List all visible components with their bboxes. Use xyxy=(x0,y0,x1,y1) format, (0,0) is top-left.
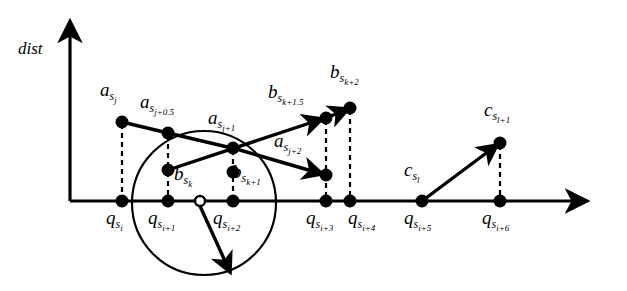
label-b-sk15-base: b xyxy=(268,81,278,102)
label-a-sj2-base: a xyxy=(274,130,284,151)
label-b-sk2-base: b xyxy=(330,61,340,82)
arrow-csl-to-csl1 xyxy=(422,145,497,201)
label-q-si1: qsi+1 xyxy=(148,208,175,233)
point-a-sj xyxy=(116,116,129,129)
label-b-sk-base: b xyxy=(174,163,184,184)
label-c-sl1: csl+1 xyxy=(484,100,510,125)
label-q-si6-base: q xyxy=(482,207,492,228)
label-a-sj-base: a xyxy=(100,79,110,100)
marker-q-si4 xyxy=(344,195,357,208)
label-a-sj05-base: a xyxy=(140,91,150,112)
label-b-sk1-sub: sk+1 xyxy=(242,171,261,185)
label-a-sj05-sub: sj+0.5 xyxy=(150,101,175,115)
point-c-sl1 xyxy=(494,137,507,150)
label-q-si1-base: q xyxy=(148,207,158,228)
marker-q-si3 xyxy=(320,195,333,208)
label-q-si5-sub: si+5 xyxy=(414,217,432,231)
label-q-si2-base: q xyxy=(213,207,223,228)
label-q-si3-sub: si+3 xyxy=(316,217,334,231)
label-q-si6: qsi+6 xyxy=(482,208,509,233)
label-a-sj1: asj+1 xyxy=(208,108,235,133)
distance-diagram-figure: dist asj asj+0.5 asj+1 asj+2 bsk bsk+1 b… xyxy=(0,0,627,291)
label-q-si-base: q xyxy=(106,207,116,228)
label-b-sk1: bsk+1 xyxy=(232,162,261,187)
label-b-sk1-base: b xyxy=(232,161,242,182)
label-q-si2-sub: si+2 xyxy=(223,217,241,231)
label-b-sk2: bsk+2 xyxy=(330,62,359,87)
label-q-si4-base: q xyxy=(348,207,358,228)
marker-q-si6 xyxy=(494,195,507,208)
label-q-si-sub: si xyxy=(116,217,123,231)
label-b-sk: bsk xyxy=(174,164,192,189)
y-axis-label: dist xyxy=(18,40,43,57)
label-q-si: qsi xyxy=(106,208,123,233)
label-a-sj2: asj+2 xyxy=(274,131,301,156)
arrows-group xyxy=(168,109,497,272)
point-a-sj05 xyxy=(162,127,175,140)
label-q-si1-sub: si+1 xyxy=(158,217,176,231)
label-a-sj1-sub: sj+1 xyxy=(218,117,236,131)
label-q-si5-base: q xyxy=(404,207,414,228)
marker-q-si1 xyxy=(162,195,175,208)
label-b-sk-sub: sk xyxy=(184,173,193,187)
label-q-si4-sub: si+4 xyxy=(358,217,376,231)
label-q-si6-sub: si+6 xyxy=(492,217,510,231)
marker-q-si5 xyxy=(416,195,429,208)
label-q-si3-base: q xyxy=(306,207,316,228)
marker-q-si xyxy=(116,195,129,208)
point-a-sj1 xyxy=(227,142,240,155)
label-q-si3: qsi+3 xyxy=(306,208,333,233)
point-b-sk15 xyxy=(320,112,333,125)
label-a-sj1-base: a xyxy=(208,107,218,128)
label-q-si2: qsi+2 xyxy=(213,208,240,233)
label-a-sj: asj xyxy=(100,80,117,105)
diagram-canvas xyxy=(0,0,627,291)
marker-q-si2 xyxy=(227,195,240,208)
label-b-sk15: bsk+1.5 xyxy=(268,82,304,107)
point-a-sj2 xyxy=(320,169,333,182)
point-b-sk2 xyxy=(344,102,357,115)
label-c-sl-sub: sl xyxy=(412,169,419,183)
marker-open-circle xyxy=(195,196,205,206)
point-b-sk xyxy=(162,164,175,177)
label-q-si5: qsi+5 xyxy=(404,208,431,233)
label-b-sk2-sub: sk+2 xyxy=(340,71,359,85)
label-q-si4: qsi+4 xyxy=(348,208,375,233)
seg-asj-to-asj05 xyxy=(122,122,168,133)
label-a-sj05: asj+0.5 xyxy=(140,92,174,117)
label-a-sj-sub: sj xyxy=(110,89,117,103)
label-a-sj2-sub: sj+2 xyxy=(284,140,302,154)
label-c-sl: csl xyxy=(404,160,420,185)
label-c-sl1-sub: sl+1 xyxy=(492,109,510,123)
label-b-sk15-sub: sk+1.5 xyxy=(278,91,304,105)
